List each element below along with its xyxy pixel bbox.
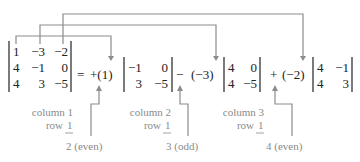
minor-cell: −1 (128, 60, 142, 75)
term1-sign-coefficient: +(1) (90, 67, 113, 82)
matrix-cell: −2 (54, 44, 68, 59)
row-number: 1 (165, 119, 171, 131)
arrow-parity3-to-sign3 (275, 89, 292, 136)
main-determinant: 1 −3 −2 4 −1 0 4 3 −5 (9, 41, 71, 92)
matrix-cell: −1 (31, 60, 45, 75)
row-number: 1 (258, 119, 264, 131)
term3-coefficient: (−2) (282, 67, 305, 82)
matrix-cell: 4 (13, 60, 20, 75)
minor-cell: 4 (228, 60, 235, 75)
matrix-cell: −3 (31, 44, 45, 59)
minor-cell: −5 (154, 76, 168, 91)
arrow-parity1-to-sign1 (91, 89, 99, 136)
row-label: row (46, 119, 63, 131)
minor-3: 4 −1 4 3 (313, 57, 352, 92)
matrix-cell: 1 (13, 44, 20, 59)
matrix-cell: 3 (39, 76, 46, 91)
arrowhead-icon (213, 56, 219, 61)
minor-cell: 3 (343, 76, 350, 91)
arrowhead-icon (108, 56, 114, 61)
minor-cell: −1 (335, 60, 349, 75)
term3-sign: + (270, 67, 277, 82)
minor-cell: 3 (136, 76, 143, 91)
minor-cell: 0 (162, 60, 169, 75)
cofactor-expansion-diagram: 1 −3 −2 4 −1 0 4 3 −5 = +(1) −1 0 3 −5 −… (0, 0, 360, 162)
equals-sign: = (77, 67, 84, 82)
minor-cell: 0 (251, 60, 258, 75)
arrowhead-icon (300, 56, 306, 61)
minor-cell: −5 (243, 76, 257, 91)
term2-coefficient: (−3) (191, 67, 214, 82)
arrow-parity2-to-sign2 (180, 89, 188, 136)
matrix-cell: −5 (54, 76, 68, 91)
arrowhead-icon (96, 85, 102, 91)
term2-sign: − (176, 67, 183, 82)
column-label: column 1 (32, 106, 73, 118)
row-label: row (237, 119, 254, 131)
minor-cell: 4 (317, 60, 324, 75)
minor-cell: 4 (228, 76, 235, 91)
parity-label: 4 (even) (266, 140, 303, 153)
minor-1: −1 0 3 −5 (124, 57, 172, 92)
arrowhead-icon (272, 85, 278, 91)
minor-cell: 4 (317, 76, 324, 91)
parity-label: 2 (even) (66, 140, 103, 153)
column-label: column 2 (130, 106, 171, 118)
minor-2: 4 0 4 −5 (224, 57, 260, 92)
annotation-term3: column 3 row 1 4 (even) (223, 106, 303, 153)
matrix-cell: 4 (13, 76, 20, 91)
row-label: row (144, 119, 161, 131)
matrix-cell: 0 (62, 60, 69, 75)
column-label: column 3 (223, 106, 265, 118)
annotation-term1: column 1 row 1 2 (even) (32, 106, 103, 153)
arrowhead-icon (177, 85, 183, 91)
row-number: 1 (67, 119, 73, 131)
parity-label: 3 (odd) (166, 140, 198, 153)
